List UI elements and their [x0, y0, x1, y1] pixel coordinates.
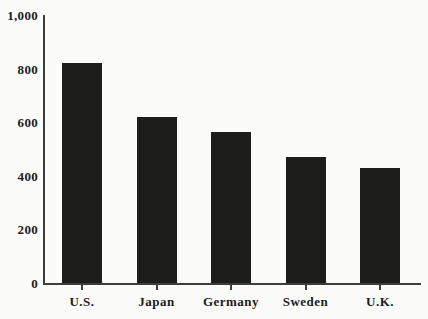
bar-us — [62, 63, 102, 283]
x-tick — [230, 283, 232, 290]
bar-chart: 02004006008001,000 U.S.JapanGermanySwede… — [0, 0, 428, 319]
x-tick — [156, 283, 158, 290]
y-tick-label: 400 — [0, 169, 38, 182]
y-tick-label: 0 — [0, 277, 38, 290]
bar-japan — [137, 117, 177, 283]
bar-sweden — [286, 157, 326, 283]
y-tick-label: 1,000 — [0, 9, 38, 22]
x-tick — [305, 283, 307, 290]
x-tick — [379, 283, 381, 290]
y-axis-line — [43, 15, 45, 285]
y-tick-label: 600 — [0, 116, 38, 129]
bar-germany — [211, 132, 251, 283]
y-tick-label: 200 — [0, 223, 38, 236]
y-tick-label: 800 — [0, 62, 38, 75]
x-tick — [81, 283, 83, 290]
bar-uk — [360, 168, 400, 283]
x-category-label: U.K. — [335, 294, 425, 310]
x-axis-line — [43, 283, 421, 285]
